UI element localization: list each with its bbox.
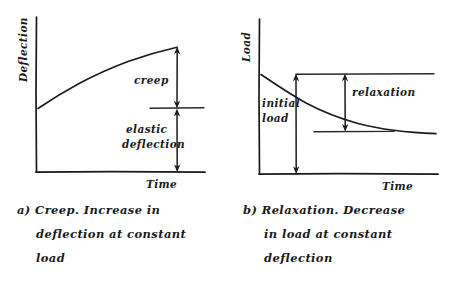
figure-canvas: Deflection Time creep elastic deflection… [0, 0, 450, 288]
panel-b-caption-line3: deflection [264, 251, 333, 265]
panel-a-y-axis [36, 17, 37, 172]
panel-b-x-axis-label: Time [382, 180, 413, 192]
panel-b-initial-load-label-line2: load [262, 112, 289, 124]
panel-b-relaxation-label: relaxation [352, 86, 416, 98]
panel-a-caption-line3: load [36, 251, 65, 265]
panel-b-caption-line2: in load at constant [264, 227, 393, 241]
panel-a-x-axis-label: Time [146, 178, 177, 190]
panel-b-relaxation: Load Time initial load relaxation b) Rel… [240, 19, 438, 265]
panel-a-caption-line2: deflection at constant [36, 227, 187, 241]
panel-b-caption-line1: b) Relaxation. Decrease [243, 203, 405, 217]
panel-b-x-axis [259, 174, 438, 175]
panel-b-y-axis [259, 19, 260, 174]
panel-a-y-axis-label: Deflection [17, 17, 29, 83]
panel-a-creep-label: creep [134, 74, 169, 86]
panel-a-creep: Deflection Time creep elastic deflection… [17, 17, 205, 265]
panel-a-x-axis [36, 172, 205, 173]
panel-a-caption-line1: a) Creep. Increase in [17, 203, 160, 217]
panel-a-elastic-label-line2: deflection [122, 138, 185, 150]
panel-b-initial-load-label-line1: initial [262, 97, 300, 109]
panel-b-y-axis-label: Load [240, 32, 252, 63]
figure-root: Deflection Time creep elastic deflection… [0, 0, 450, 288]
panel-a-elastic-label-line1: elastic [126, 123, 168, 135]
